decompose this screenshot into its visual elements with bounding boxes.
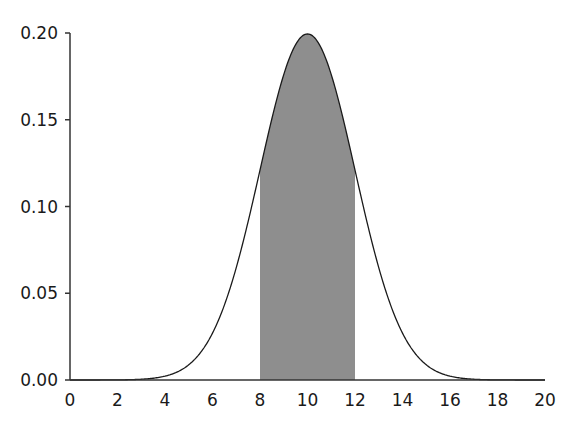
- y-axis-ticks: 0.000.050.100.150.20: [20, 23, 70, 390]
- x-axis-ticks: 02468101214161820: [65, 390, 556, 410]
- x-tick-label: 8: [255, 390, 266, 410]
- y-tick-label: 0.05: [20, 283, 58, 303]
- y-tick-label: 0.15: [20, 110, 58, 130]
- y-tick-label: 0.00: [20, 370, 58, 390]
- x-tick-label: 20: [534, 390, 556, 410]
- x-tick-label: 6: [207, 390, 218, 410]
- shaded-area: [260, 34, 355, 380]
- shaded-region: [260, 34, 355, 380]
- x-tick-label: 14: [392, 390, 414, 410]
- x-tick-label: 0: [65, 390, 76, 410]
- x-tick-label: 10: [297, 390, 319, 410]
- normal-distribution-chart: 0.000.050.100.150.20 02468101214161820: [0, 0, 573, 423]
- x-tick-label: 2: [112, 390, 123, 410]
- x-tick-label: 12: [344, 390, 366, 410]
- x-tick-label: 18: [487, 390, 509, 410]
- y-tick-label: 0.10: [20, 197, 58, 217]
- y-tick-label: 0.20: [20, 23, 58, 43]
- x-tick-label: 4: [160, 390, 171, 410]
- x-tick-label: 16: [439, 390, 461, 410]
